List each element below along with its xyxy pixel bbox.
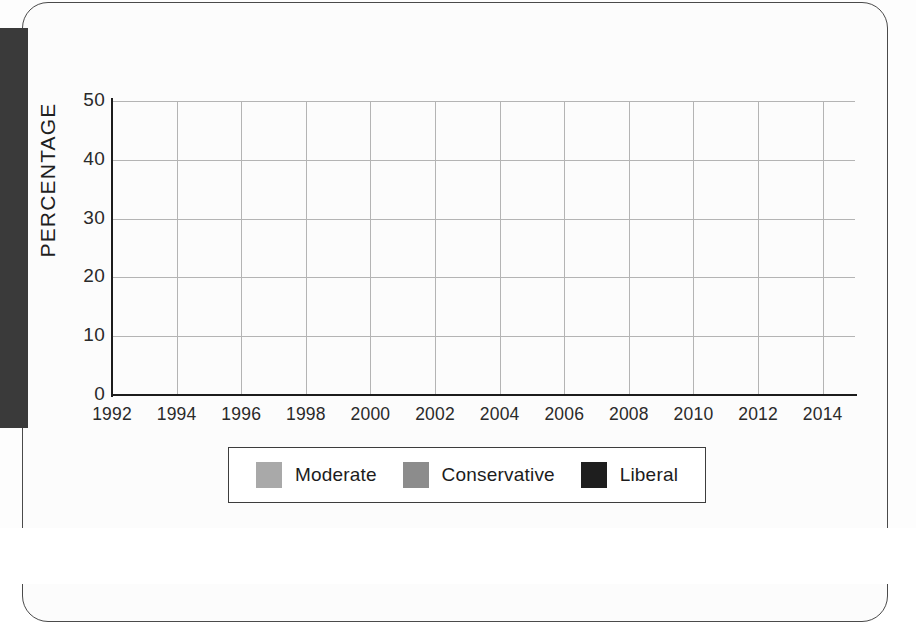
y-tick-label-0: 0 xyxy=(59,383,105,405)
legend-swatch-icon-liberal xyxy=(581,462,607,488)
legend-item-liberal[interactable]: Liberal xyxy=(581,462,678,488)
x-axis-line xyxy=(111,394,857,396)
gridline-x-2012 xyxy=(758,101,759,395)
legend-label: Liberal xyxy=(620,464,678,486)
x-tick-label-2004: 2004 xyxy=(480,404,520,425)
x-tick-label-1994: 1994 xyxy=(157,404,197,425)
gridline-x-1996 xyxy=(241,101,242,395)
x-tick-label-2010: 2010 xyxy=(674,404,714,425)
gridline-x-2014 xyxy=(823,101,824,395)
x-tick-label-2014: 2014 xyxy=(803,404,843,425)
plot-area xyxy=(112,101,855,395)
y-tick-label-20: 20 xyxy=(59,265,105,287)
gridline-y-10 xyxy=(112,336,855,337)
y-axis-tick-labels: 50403020100 xyxy=(55,101,105,395)
x-tick-label-2006: 2006 xyxy=(544,404,584,425)
x-tick-label-1998: 1998 xyxy=(286,404,326,425)
gridline-y-20 xyxy=(112,277,855,278)
legend-item-conservative[interactable]: Conservative xyxy=(403,462,555,488)
legend-swatch-icon-conservative xyxy=(403,462,429,488)
y-tick-label-10: 10 xyxy=(59,324,105,346)
gridline-x-2002 xyxy=(435,101,436,395)
gridline-x-2000 xyxy=(370,101,371,395)
x-tick-label-2000: 2000 xyxy=(351,404,391,425)
legend-item-moderate[interactable]: Moderate xyxy=(256,462,377,488)
legend-label: Conservative xyxy=(442,464,555,486)
gridline-y-50 xyxy=(112,101,855,102)
legend-swatch-icon-moderate xyxy=(256,462,282,488)
y-tick-label-40: 40 xyxy=(59,148,105,170)
plot-background xyxy=(112,101,855,395)
gridline-x-2006 xyxy=(564,101,565,395)
y-tick-label-50: 50 xyxy=(59,89,105,111)
gridline-x-2010 xyxy=(693,101,694,395)
x-tick-label-2002: 2002 xyxy=(415,404,455,425)
gridline-x-1994 xyxy=(177,101,178,395)
x-tick-label-2008: 2008 xyxy=(609,404,649,425)
x-tick-label-1996: 1996 xyxy=(221,404,261,425)
y-axis-line xyxy=(111,98,113,397)
chart-legend: ModerateConservativeLiberal xyxy=(228,447,706,503)
gridline-y-40 xyxy=(112,160,855,161)
page-bottom-mask xyxy=(0,528,916,584)
y-tick-label-30: 30 xyxy=(59,207,105,229)
gridline-x-1998 xyxy=(306,101,307,395)
gridline-x-2004 xyxy=(500,101,501,395)
x-tick-label-2012: 2012 xyxy=(738,404,778,425)
x-tick-label-1992: 1992 xyxy=(92,404,132,425)
x-axis-tick-labels: 1992199419961998200020022004200620082010… xyxy=(112,404,855,430)
legend-label: Moderate xyxy=(295,464,377,486)
gridline-x-2008 xyxy=(629,101,630,395)
gridline-y-30 xyxy=(112,219,855,220)
